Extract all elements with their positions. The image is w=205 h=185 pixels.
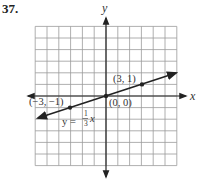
label-point-origin: (0, 0) [109,97,132,109]
x-axis-label: x [189,89,196,103]
svg-text:1: 1 [84,109,88,118]
y-axis-label: y [101,1,108,15]
point-origin [104,94,108,98]
label-point-neg3-neg1: (−3, −1) [29,96,64,108]
label-point-3-1: (3, 1) [113,73,136,85]
svg-text:x: x [89,113,95,124]
svg-text:y =: y = [62,116,76,127]
point-3-1 [140,82,144,86]
svg-text:3: 3 [84,119,88,128]
equation-label: y = 1 3 x [62,109,95,128]
point-neg3-neg1 [68,105,72,109]
coordinate-graph: x y (−3, −1) (0, 0) (3, 1) y = 1 3 x [0,0,205,185]
